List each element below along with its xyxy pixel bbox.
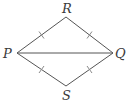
vertex-label-q: Q [115, 46, 126, 61]
tick-mark-rq [87, 32, 92, 39]
geometry-diagram: R P Q S [0, 0, 132, 102]
vertex-label-p: P [2, 46, 12, 61]
vertex-label-r: R [61, 1, 72, 16]
tick-mark-sp [39, 66, 44, 73]
vertex-label-s: S [62, 88, 71, 102]
tick-mark-pr [39, 32, 44, 39]
tick-mark-qs [87, 66, 92, 73]
